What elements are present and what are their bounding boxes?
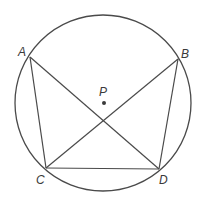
segment-bc [46,59,178,168]
label-c: C [36,173,45,187]
geometry-diagram: A B C D P [0,0,201,202]
segment-ac [30,57,46,168]
label-a: A [17,45,26,59]
label-d: D [159,173,168,187]
label-p: P [99,85,107,99]
label-b: B [181,47,189,61]
segment-ad [30,57,159,169]
segment-cd [46,168,159,169]
center-point [102,101,106,105]
